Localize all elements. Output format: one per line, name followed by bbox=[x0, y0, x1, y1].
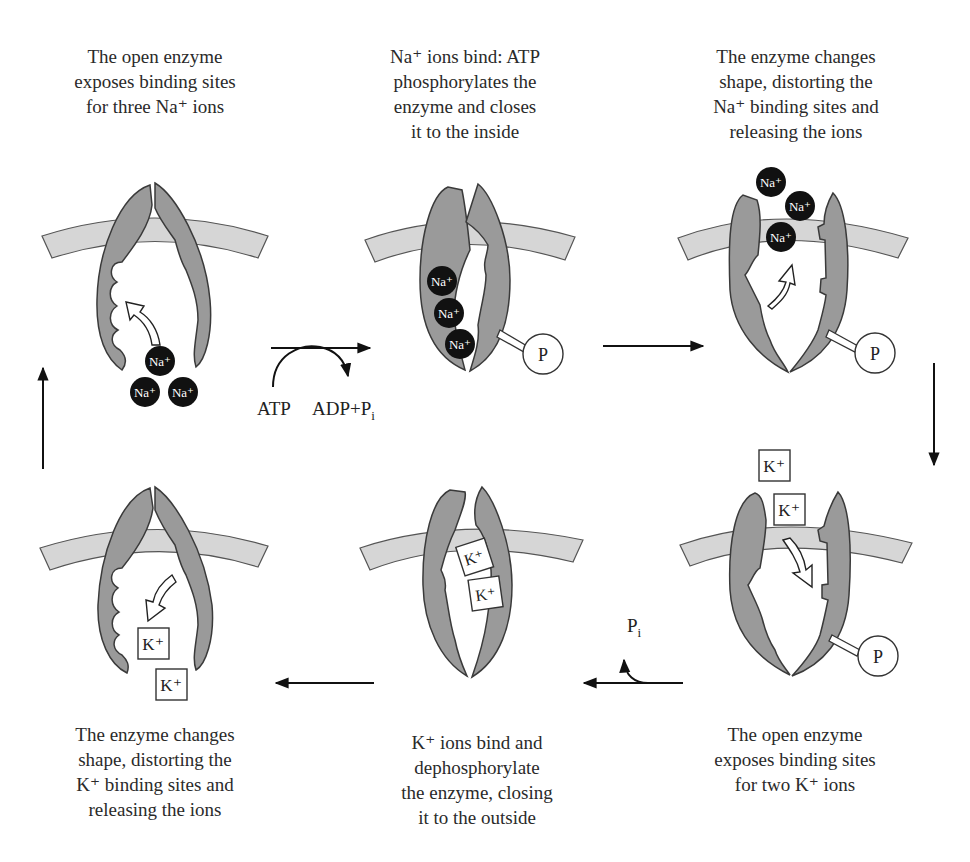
svg-text:K⁺: K⁺ bbox=[160, 676, 181, 695]
k-ion: K⁺ bbox=[138, 628, 169, 659]
step4-enzyme: K⁺ K⁺ P bbox=[680, 450, 912, 676]
membrane bbox=[40, 529, 268, 570]
na-ion: Na⁺ bbox=[756, 167, 786, 197]
k-ion: K⁺ bbox=[759, 450, 790, 481]
membrane bbox=[365, 222, 575, 262]
svg-text:ATP: ATP bbox=[257, 398, 291, 419]
svg-text:Na⁺: Na⁺ bbox=[172, 385, 194, 400]
svg-text:P: P bbox=[538, 345, 548, 365]
phosphate-group: P bbox=[829, 635, 898, 676]
na-ion: Na⁺ bbox=[434, 298, 464, 328]
na-ion: Na⁺ bbox=[785, 191, 815, 221]
k-ion: K⁺ bbox=[774, 494, 805, 525]
na-ion: Na⁺ bbox=[145, 346, 175, 376]
adp-label: ADP+Pi bbox=[312, 398, 375, 423]
pi-label: Pi bbox=[627, 615, 642, 640]
curved-arrow-icon bbox=[768, 265, 795, 309]
svg-text:Na⁺: Na⁺ bbox=[760, 175, 782, 190]
step1-enzyme: Na⁺ Na⁺ Na⁺ bbox=[42, 183, 268, 407]
svg-text:Na⁺: Na⁺ bbox=[431, 274, 453, 289]
svg-text:Na⁺: Na⁺ bbox=[789, 199, 811, 214]
membrane bbox=[42, 218, 268, 258]
svg-text:K⁺: K⁺ bbox=[142, 635, 163, 654]
svg-text:K⁺: K⁺ bbox=[763, 457, 784, 476]
na-ion: Na⁺ bbox=[168, 377, 198, 407]
svg-text:K⁺: K⁺ bbox=[474, 585, 496, 605]
step2-enzyme: Na⁺ Na⁺ Na⁺ P bbox=[365, 184, 575, 374]
enzyme-left-subunit bbox=[423, 490, 467, 676]
phosphate-group: P bbox=[497, 330, 563, 374]
curved-arrow-icon bbox=[126, 302, 160, 345]
svg-text:Na⁺: Na⁺ bbox=[134, 385, 156, 400]
curved-arrow-icon bbox=[146, 575, 176, 621]
k-ion: K⁺ bbox=[468, 576, 503, 611]
arrow-pi-release: Pi bbox=[584, 615, 683, 683]
svg-text:P: P bbox=[873, 647, 883, 667]
svg-text:P: P bbox=[870, 344, 880, 364]
pump-cycle-diagram: Na⁺ Na⁺ Na⁺ Na⁺ Na⁺ Na⁺ P bbox=[0, 0, 970, 862]
svg-text:Na⁺: Na⁺ bbox=[438, 306, 460, 321]
svg-text:Na⁺: Na⁺ bbox=[449, 337, 471, 352]
svg-text:Na⁺: Na⁺ bbox=[149, 354, 171, 369]
na-ion: Na⁺ bbox=[445, 329, 475, 359]
svg-text:K⁺: K⁺ bbox=[778, 501, 799, 520]
enzyme-left-subunit bbox=[97, 185, 152, 370]
step5-enzyme: K⁺ K⁺ bbox=[360, 487, 583, 677]
enzyme-right-subunit bbox=[155, 183, 211, 367]
step3-enzyme: Na⁺ Na⁺ Na⁺ P bbox=[678, 167, 908, 373]
k-ion: K⁺ bbox=[156, 669, 187, 700]
svg-text:Na⁺: Na⁺ bbox=[770, 230, 792, 245]
na-ion: Na⁺ bbox=[427, 266, 457, 296]
phosphate-group: P bbox=[826, 330, 895, 373]
step6-enzyme: K⁺ K⁺ bbox=[40, 487, 268, 700]
na-ion: Na⁺ bbox=[130, 377, 160, 407]
na-ion: Na⁺ bbox=[766, 222, 796, 252]
arrow-atp-phosphorylation: ATP ADP+Pi bbox=[257, 346, 375, 423]
